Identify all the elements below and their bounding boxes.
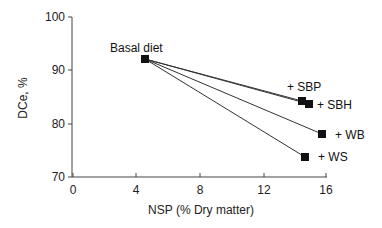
x-tick-4: 4 — [133, 183, 140, 197]
y-axis-title: DCe, % — [16, 77, 30, 119]
line-wb — [145, 59, 322, 134]
marker-ws — [301, 153, 309, 161]
marker-sbp — [298, 97, 306, 105]
label-ws: + WS — [318, 150, 348, 164]
chart: 100 90 80 70 DCe, % 0 4 8 12 16 NSP (% D… — [0, 0, 382, 228]
markers — [141, 55, 326, 161]
x-tick-16: 16 — [319, 183, 333, 197]
label-basal-diet: Basal diet — [110, 41, 163, 55]
x-tick-12: 12 — [257, 183, 271, 197]
x-axis-title: NSP (% Dry matter) — [148, 203, 254, 217]
y-tick-100: 100 — [45, 10, 65, 24]
line-ws — [145, 59, 305, 157]
x-tick-0: 0 — [70, 183, 77, 197]
series-lines — [145, 59, 322, 157]
marker-basal — [141, 55, 149, 63]
marker-sbh — [305, 100, 313, 108]
label-sbp: + SBP — [287, 80, 321, 94]
line-sbh — [145, 59, 309, 104]
y-tick-90: 90 — [52, 63, 66, 77]
y-axis: 100 90 80 70 — [45, 10, 72, 184]
marker-wb — [318, 130, 326, 138]
y-tick-80: 80 — [52, 117, 66, 131]
y-tick-70: 70 — [52, 170, 66, 184]
label-sbh: + SBH — [317, 98, 352, 112]
x-axis: 0 4 8 12 16 — [70, 173, 333, 197]
x-tick-8: 8 — [197, 183, 204, 197]
label-wb: + WB — [335, 128, 365, 142]
